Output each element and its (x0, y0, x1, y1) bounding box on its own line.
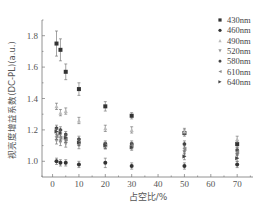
x-tick-label: 60 (206, 179, 216, 189)
legend-label: 430nm (227, 15, 251, 25)
data-point (130, 164, 134, 168)
legend-item: 580nm (219, 56, 251, 66)
series-610nm (55, 133, 240, 155)
data-point (77, 162, 81, 166)
data-point (64, 161, 68, 165)
x-tick-label: 40 (154, 179, 164, 189)
legend-item: 430nm (218, 15, 251, 25)
legend-item: 520nm (218, 46, 251, 56)
series-430nm (55, 31, 240, 147)
legend-label: 610nm (227, 67, 251, 77)
legend-label: 460nm (227, 25, 251, 35)
data-point (58, 48, 62, 52)
data-point (103, 104, 107, 108)
x-tick-label: 20 (101, 179, 111, 189)
series-490nm (55, 103, 240, 142)
data-point (64, 109, 68, 113)
data-point (77, 87, 81, 91)
data-points (55, 31, 240, 169)
legend-marker-icon (218, 29, 221, 32)
legend-marker-icon (219, 60, 222, 63)
data-point (235, 162, 239, 166)
legend-marker-icon (218, 39, 221, 42)
y-tick-label: 1.8 (27, 31, 39, 41)
legend-item: 490nm (218, 36, 251, 46)
y-tick-label: 1.2 (27, 125, 38, 135)
series-460nm (55, 158, 240, 169)
legend-item: 460nm (218, 25, 251, 35)
y-tick-label: 1.4 (27, 94, 39, 104)
legend-marker-icon (218, 80, 221, 83)
data-point (55, 104, 59, 108)
x-tick-label: 0 (50, 179, 55, 189)
legend-marker-icon (218, 49, 221, 52)
x-axis-label: 占空比/% (129, 191, 168, 202)
data-point (64, 70, 68, 74)
data-point (58, 111, 62, 115)
series-580nm (55, 125, 239, 153)
data-point (103, 126, 107, 130)
data-point (55, 159, 59, 163)
data-point (77, 118, 81, 122)
x-tick-label: 70 (233, 179, 243, 189)
data-point (103, 161, 107, 165)
axis-lines (42, 20, 253, 177)
x-tick-label: 30 (127, 179, 137, 189)
legend-item: 610nm (218, 67, 251, 77)
data-point (55, 42, 59, 46)
series-520nm (55, 138, 240, 158)
y-axis-label: 视亮度增益系数(DC-PL)(a.u.) (7, 41, 17, 159)
legend-label: 580nm (227, 56, 251, 66)
legend-label: 490nm (227, 36, 251, 46)
data-point (130, 128, 134, 132)
data-point (130, 114, 134, 118)
legend: 430nm460nm490nm520nm580nm610nm640nm (218, 15, 251, 87)
data-point (58, 161, 62, 165)
data-point (182, 164, 186, 168)
series-640nm (55, 128, 240, 161)
data-point (235, 137, 239, 141)
scatter-chart: 0102030405060701.01.21.41.61.8 430nm460n… (0, 0, 266, 211)
legend-marker-icon (218, 18, 221, 21)
y-tick-label: 1.6 (27, 62, 39, 72)
legend-label: 520nm (227, 46, 251, 56)
legend-item: 640nm (218, 77, 251, 87)
legend-marker-icon (218, 70, 221, 73)
x-tick-label: 10 (74, 179, 84, 189)
x-tick-label: 50 (180, 179, 190, 189)
y-tick-label: 1.0 (27, 156, 39, 166)
legend-label: 640nm (227, 77, 251, 87)
